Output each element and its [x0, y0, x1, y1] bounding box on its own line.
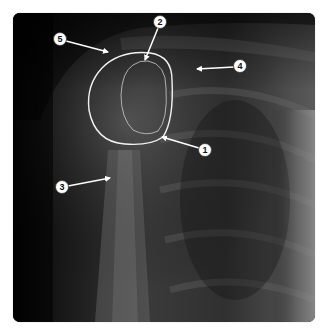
- marker-label: 1: [202, 145, 207, 155]
- arrow-icon: [145, 28, 158, 60]
- arrow-icon: [66, 41, 108, 52]
- marker-label: 5: [57, 34, 62, 44]
- marker-1: 1: [162, 137, 212, 157]
- arrow-icon: [162, 137, 199, 148]
- marker-4: 4: [197, 60, 247, 73]
- marker-label: 2: [157, 17, 162, 27]
- marker-5: 5: [54, 33, 109, 53]
- marker-label: 3: [59, 182, 64, 192]
- marker-3: 3: [56, 178, 111, 194]
- marker-label: 4: [237, 61, 242, 71]
- inner-outline: [121, 61, 166, 134]
- annotation-layer: 1 2 3 4 5: [0, 0, 329, 336]
- marker-2: 2: [145, 16, 167, 61]
- arrow-icon: [197, 67, 234, 69]
- arrow-icon: [68, 178, 110, 186]
